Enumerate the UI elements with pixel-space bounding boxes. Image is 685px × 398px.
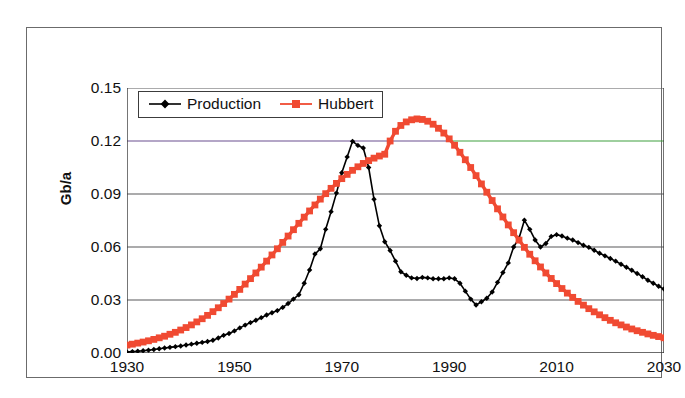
x-tick-label: 1970 <box>325 358 359 376</box>
y-tick-label: 0.09 <box>75 185 121 203</box>
screenshot-canvas: Gb/a 0.000.030.060.090.120.15 1930195019… <box>0 0 685 398</box>
legend-label-hubbert: Hubbert <box>318 95 373 113</box>
y-tick-label: 0.03 <box>75 291 121 309</box>
x-tick-label: 1950 <box>217 358 251 376</box>
plot-svg <box>127 88 664 353</box>
legend-label-production: Production <box>187 95 261 113</box>
series-hubbert <box>127 116 664 349</box>
plot-area <box>127 88 664 353</box>
x-tick-label: 1930 <box>110 358 144 376</box>
figure-frame: Gb/a 0.000.030.060.090.120.15 1930195019… <box>26 27 662 378</box>
diamond-marker-icon <box>148 98 182 110</box>
chart-legend: Production Hubbert <box>138 91 383 118</box>
y-axis-tick-labels: 0.000.030.060.090.120.15 <box>69 88 121 353</box>
x-axis-tick-labels: 193019501970199020102030 <box>127 358 664 382</box>
series-production <box>127 139 664 353</box>
y-tick-label: 0.06 <box>75 238 121 256</box>
x-tick-label: 2010 <box>539 358 573 376</box>
x-tick-label: 2030 <box>647 358 681 376</box>
y-tick-label: 0.12 <box>75 132 121 150</box>
y-tick-label: 0.15 <box>75 79 121 97</box>
x-tick-label: 1990 <box>432 358 466 376</box>
legend-entry-production: Production <box>148 95 261 113</box>
square-marker-icon <box>279 98 313 110</box>
legend-entry-hubbert: Hubbert <box>279 95 373 113</box>
